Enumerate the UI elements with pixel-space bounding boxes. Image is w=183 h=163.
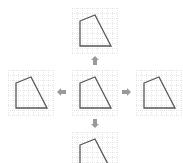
panel-right xyxy=(136,70,182,116)
grid-right xyxy=(136,70,182,116)
grid-left xyxy=(8,70,54,116)
polygon-shape xyxy=(16,77,47,108)
grid-center xyxy=(72,70,118,116)
grid-top xyxy=(72,8,118,54)
arrow-down-icon xyxy=(91,119,99,128)
panel-top xyxy=(72,8,118,54)
polygon-shape xyxy=(80,77,111,108)
arrow-up-icon xyxy=(91,56,99,65)
polygon-shape xyxy=(80,15,111,46)
polygon-shape xyxy=(144,77,175,108)
panel-center xyxy=(72,70,118,116)
arrow-right-icon xyxy=(122,88,131,96)
panel-left xyxy=(8,70,54,116)
grid-bottom xyxy=(72,132,118,163)
panel-bottom xyxy=(72,132,118,163)
arrow-left-icon xyxy=(57,88,66,96)
